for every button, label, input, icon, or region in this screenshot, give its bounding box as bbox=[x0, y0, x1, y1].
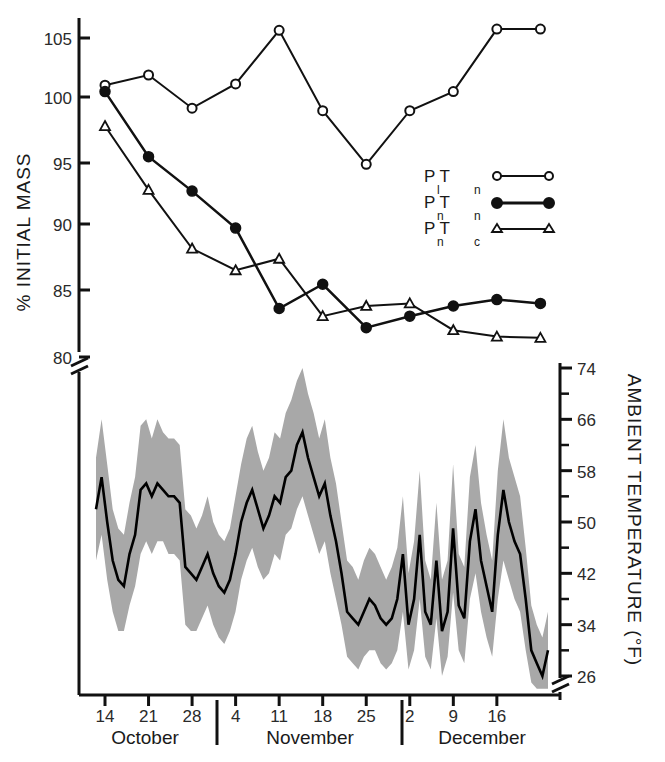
x-tick-label-28: 28 bbox=[183, 707, 202, 726]
x-tick-label-2: 2 bbox=[405, 707, 414, 726]
x-tick-label-18: 18 bbox=[313, 707, 332, 726]
series-line-pn-tc bbox=[105, 126, 540, 338]
data-point-filled-circle bbox=[231, 223, 241, 233]
x-axis-ticks bbox=[105, 695, 497, 706]
data-point-open-circle bbox=[405, 106, 414, 115]
legend-sub-pn-tc-1: n bbox=[437, 235, 444, 249]
data-point-open-circle bbox=[188, 104, 197, 113]
temp-y-ticks bbox=[560, 368, 572, 676]
x-tick-label-9: 9 bbox=[449, 707, 458, 726]
series-markers-pn-tc bbox=[100, 121, 545, 342]
legend-marker-open-triangle bbox=[492, 224, 502, 232]
legend-marker-filled-circle bbox=[492, 198, 502, 208]
temp-tick-label-66: 66 bbox=[577, 411, 596, 430]
data-point-open-triangle bbox=[492, 332, 502, 341]
data-point-filled-circle bbox=[274, 304, 284, 314]
legend-marker-open-circle bbox=[493, 172, 501, 180]
legend-sub-pn-tn-2: n bbox=[474, 209, 481, 223]
data-point-open-triangle bbox=[535, 333, 545, 342]
x-axis-tick-labels: 14212841118252916 bbox=[96, 707, 507, 726]
temp-tick-label-34: 34 bbox=[577, 617, 596, 636]
temp-axis-break-mark bbox=[552, 684, 569, 692]
data-point-open-triangle bbox=[361, 301, 371, 310]
legend-sub-pn-tc-2: c bbox=[474, 235, 480, 249]
data-point-open-circle bbox=[231, 79, 240, 88]
data-point-filled-circle bbox=[448, 301, 458, 311]
data-point-open-triangle bbox=[231, 265, 241, 274]
x-tick-label-14: 14 bbox=[96, 707, 115, 726]
x-tick-label-25: 25 bbox=[357, 707, 376, 726]
mass-ytick-85: 85 bbox=[53, 282, 72, 301]
mass-ytick-80: 80 bbox=[53, 349, 72, 368]
data-point-open-circle bbox=[275, 26, 284, 35]
data-point-open-circle bbox=[536, 25, 545, 34]
data-point-filled-circle bbox=[144, 152, 154, 162]
mass-ytick-100: 100 bbox=[44, 89, 72, 108]
month-label-november: November bbox=[266, 727, 354, 748]
x-tick-label-21: 21 bbox=[139, 707, 158, 726]
x-tick-label-11: 11 bbox=[270, 707, 288, 726]
temp-y-axis-title: AMBIENT TEMPERATURE (°F) bbox=[624, 374, 645, 666]
data-point-filled-circle bbox=[361, 323, 371, 333]
mass-ytick-105: 105 bbox=[44, 30, 72, 49]
data-point-filled-circle bbox=[492, 295, 502, 305]
series-line-pl-tn bbox=[105, 29, 540, 164]
x-tick-label-16: 16 bbox=[487, 707, 506, 726]
temp-tick-label-74: 74 bbox=[577, 360, 596, 379]
data-point-open-triangle bbox=[274, 254, 284, 263]
data-point-open-circle bbox=[449, 87, 458, 96]
legend-marker-filled-circle bbox=[544, 198, 554, 208]
legend: P T l n P T n n P T n c bbox=[424, 167, 554, 249]
legend-marker-open-circle bbox=[545, 172, 553, 180]
month-label-december: December bbox=[438, 727, 526, 748]
mass-y-ticks bbox=[79, 38, 90, 357]
mass-ytick-95: 95 bbox=[53, 155, 72, 174]
series-markers-pl-tn bbox=[101, 25, 545, 169]
x-tick-label-4: 4 bbox=[231, 707, 240, 726]
mass-panel: 105 100 95 90 85 80 % INITIAL MASS P T l bbox=[13, 18, 554, 695]
x-axis: 14212841118252916 October November Decem… bbox=[79, 695, 560, 748]
temp-tick-label-42: 42 bbox=[577, 565, 596, 584]
data-point-open-circle bbox=[362, 160, 371, 169]
month-label-october: October bbox=[111, 727, 179, 748]
legend-marker-open-triangle bbox=[544, 224, 554, 232]
chart-svg: 105 100 95 90 85 80 % INITIAL MASS P T l bbox=[0, 0, 665, 762]
temp-tick-label-58: 58 bbox=[577, 463, 596, 482]
data-point-open-triangle bbox=[100, 121, 110, 130]
temp-tick-label-26: 26 bbox=[577, 668, 596, 687]
legend-sub-pl-tn-2: n bbox=[474, 183, 481, 197]
data-point-filled-circle bbox=[405, 311, 415, 321]
data-point-filled-circle bbox=[187, 186, 197, 196]
mass-ytick-90: 90 bbox=[53, 216, 72, 235]
data-point-filled-circle bbox=[535, 298, 545, 308]
data-point-filled-circle bbox=[318, 279, 328, 289]
temperature-range-band bbox=[96, 368, 548, 689]
mass-y-axis-title: % INITIAL MASS bbox=[13, 153, 34, 312]
axis-break-mark bbox=[71, 358, 88, 366]
temperature-panel: 26344250586674 AMBIENT TEMPERATURE (°F) bbox=[96, 360, 645, 700]
temp-y-tick-labels: 26344250586674 bbox=[577, 360, 596, 687]
data-point-filled-circle bbox=[100, 87, 110, 97]
data-point-open-circle bbox=[492, 25, 501, 34]
data-point-open-triangle bbox=[405, 298, 415, 307]
figure-container: 105 100 95 90 85 80 % INITIAL MASS P T l bbox=[0, 0, 665, 762]
data-point-open-circle bbox=[318, 106, 327, 115]
data-point-open-triangle bbox=[448, 325, 458, 334]
data-point-open-circle bbox=[144, 71, 153, 80]
temp-tick-label-50: 50 bbox=[577, 514, 596, 533]
